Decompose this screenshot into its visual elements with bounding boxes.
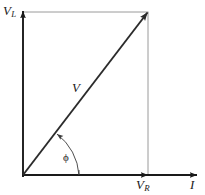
label-vl-symbol: V [3,3,11,18]
label-resistive-component: VR [136,178,149,191]
vector-arrow-v [23,13,148,176]
label-horizontal-axis: I [190,178,194,191]
phasor-diagram-figure: VL VR I V ϕ [0,0,205,195]
label-vertical-axis: VL [3,4,16,17]
phasor-diagram-canvas [0,0,205,195]
label-phase-angle: ϕ [63,152,69,163]
label-i-symbol: I [190,177,194,192]
label-vr-subscript: R [144,183,149,193]
label-v-symbol: V [72,80,80,95]
label-vr-symbol: V [136,177,144,192]
label-vl-subscript: L [11,9,16,19]
label-resultant-vector: V [72,81,80,94]
